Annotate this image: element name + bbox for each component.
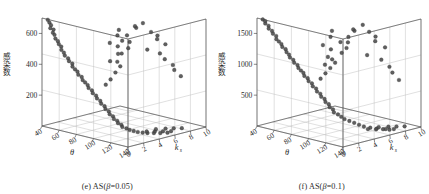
caption-prefix-e: (e) AS( xyxy=(82,182,107,191)
data-point xyxy=(352,121,356,125)
z-tick-label: 2 xyxy=(140,144,148,154)
x-tick-label: 100 xyxy=(83,138,97,152)
figure-container: 20040060040608010012014000246810θks 感染数 … xyxy=(0,0,429,194)
data-point xyxy=(360,23,364,27)
y-tick-label: 200 xyxy=(26,91,38,100)
data-point xyxy=(288,56,292,60)
panel-caption-f: (f) AS(β=0.1) xyxy=(215,182,429,191)
data-point xyxy=(109,78,113,82)
data-point xyxy=(330,29,334,33)
caption-suffix-e: =0.05) xyxy=(110,182,132,191)
data-point xyxy=(155,37,159,41)
data-point xyxy=(365,53,369,57)
data-point xyxy=(164,42,168,46)
data-point xyxy=(91,91,95,95)
data-point xyxy=(179,74,183,78)
panel-e: 20040060040608010012014000246810θks 感染数 … xyxy=(0,0,215,194)
data-point xyxy=(77,73,81,77)
data-point xyxy=(126,46,130,50)
z-axis-title: k xyxy=(389,143,393,152)
data-point xyxy=(59,45,63,49)
data-point xyxy=(344,46,348,50)
data-point xyxy=(263,22,267,26)
data-point xyxy=(108,59,112,63)
data-point xyxy=(402,124,406,128)
data-point xyxy=(321,43,325,47)
data-point xyxy=(158,52,162,56)
data-point xyxy=(379,58,383,62)
data-point xyxy=(117,28,121,32)
data-point xyxy=(104,83,108,87)
data-point xyxy=(346,35,350,39)
data-point xyxy=(310,84,314,88)
data-point xyxy=(332,110,336,114)
data-point xyxy=(95,97,99,101)
data-point xyxy=(318,77,322,81)
y-tick-label: 1000 xyxy=(237,60,252,69)
data-point xyxy=(133,24,137,28)
caption-suffix-f: =0.1) xyxy=(327,182,345,191)
y-axis-label-e: 感染数 xyxy=(2,52,10,76)
data-point xyxy=(362,125,366,129)
data-point xyxy=(306,79,310,83)
data-point xyxy=(87,86,91,90)
data-point xyxy=(53,33,57,37)
data-point xyxy=(99,102,103,106)
data-point xyxy=(116,121,120,125)
data-point xyxy=(145,130,149,134)
data-point xyxy=(104,107,108,111)
panel-f: 5001000150040608010012014000246810θks 感染… xyxy=(215,0,429,194)
data-point xyxy=(323,63,327,67)
data-point xyxy=(145,48,149,52)
data-point xyxy=(149,30,153,34)
data-point xyxy=(373,39,377,43)
data-point xyxy=(120,39,124,43)
data-point xyxy=(346,41,350,45)
data-point xyxy=(161,129,165,133)
data-point xyxy=(383,46,387,50)
y-tick-label: 400 xyxy=(26,60,38,69)
data-point xyxy=(271,32,275,36)
y-axis-label-f: 感染数 xyxy=(217,52,225,76)
data-point xyxy=(366,127,370,131)
data-point xyxy=(330,58,334,62)
data-point xyxy=(164,127,168,131)
data-point xyxy=(118,64,122,68)
data-point xyxy=(67,59,71,63)
z-tick-label: 4 xyxy=(370,140,378,150)
z-axis-title: k xyxy=(175,143,179,152)
data-point xyxy=(163,57,167,61)
data-point xyxy=(180,126,184,130)
data-point xyxy=(125,34,129,38)
data-point xyxy=(339,115,343,119)
data-point xyxy=(302,74,306,78)
y-tick-label: 500 xyxy=(241,91,253,100)
x-axis-title: θ xyxy=(70,148,74,157)
data-point xyxy=(128,40,132,44)
data-point xyxy=(116,44,120,48)
x-tick-label: 120 xyxy=(100,142,114,156)
data-point xyxy=(333,61,337,65)
data-point xyxy=(328,66,332,70)
data-point xyxy=(132,129,136,133)
data-point xyxy=(376,125,380,129)
data-point xyxy=(351,28,355,32)
data-point xyxy=(166,131,170,135)
data-point xyxy=(136,130,140,134)
data-point xyxy=(315,90,319,94)
data-point xyxy=(141,131,145,135)
caption-prefix-f: (f) AS( xyxy=(299,182,323,191)
data-point xyxy=(169,129,173,133)
data-point xyxy=(116,52,120,56)
data-point xyxy=(63,54,67,58)
data-point xyxy=(116,34,120,38)
x-tick-label: 120 xyxy=(314,142,328,156)
data-point xyxy=(394,125,398,129)
data-point xyxy=(172,68,176,72)
z-tick-label: 10 xyxy=(201,127,212,139)
x-tick-label: 60 xyxy=(50,131,61,143)
data-point xyxy=(141,21,145,25)
x-tick-label: 40 xyxy=(247,126,258,138)
data-point xyxy=(342,117,346,121)
data-point xyxy=(125,126,129,130)
